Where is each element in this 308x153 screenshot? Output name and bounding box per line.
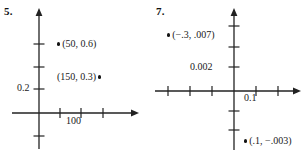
data-point-marker-icon: [57, 42, 60, 45]
worksheet-page: 5. 0.2 100 (50, 0.6): [0, 0, 308, 153]
x-axis-arrowhead-left: [131, 110, 139, 117]
data-point-left-1: (50, 0.6): [57, 39, 96, 49]
data-point-marker-icon: [244, 139, 247, 142]
data-point-right-2: (.1, −.003): [244, 136, 292, 146]
y-axis-arrowhead-right: [231, 8, 238, 16]
x-tick-label-right-0-1: 0.1: [244, 93, 257, 103]
data-point-label: (150, 0.3): [57, 72, 96, 82]
problem-7-panel: 7. 0.002 0.1: [154, 0, 308, 153]
data-point-label: (50, 0.6): [62, 39, 96, 49]
x-tick-label-left-100: 100: [66, 116, 81, 126]
problem-5-panel: 5. 0.2 100 (50, 0.6): [0, 0, 154, 153]
data-point-marker-icon: [98, 75, 101, 78]
data-point-label: (.1, −.003): [249, 136, 291, 146]
y-tick-label-right-0-002: 0.002: [190, 62, 213, 72]
y-tick-label-left-0-2: 0.2: [17, 83, 30, 93]
data-point-label: (−.3, .007): [172, 30, 214, 40]
data-point-marker-icon: [167, 33, 170, 36]
x-axis-arrowhead-right: [293, 88, 301, 95]
coordinate-axes-right: [154, 0, 308, 153]
data-point-right-1: (−.3, .007): [167, 30, 215, 40]
data-point-left-2: (150, 0.3): [57, 72, 101, 82]
y-axis-arrowhead-left: [36, 8, 43, 16]
